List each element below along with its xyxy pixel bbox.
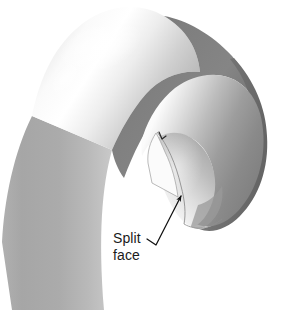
figure-root: Split face (0, 0, 281, 310)
split-face-callout-label: Split face (113, 230, 141, 264)
callout-line-2: face (113, 247, 141, 264)
tube-lower-shaft (2, 116, 112, 310)
callout-line-1: Split (113, 230, 141, 246)
